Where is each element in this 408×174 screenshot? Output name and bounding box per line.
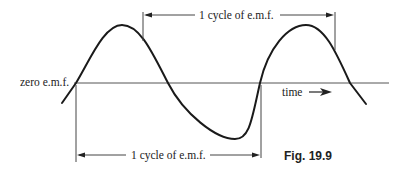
time-label: time	[282, 86, 302, 98]
figure-caption: Fig. 19.9	[284, 149, 332, 163]
top-cycle-right-arrowhead	[326, 13, 334, 18]
zero-emf-label: zero e.m.f.	[20, 76, 69, 88]
top-cycle-label: 1 cycle of e.m.f.	[199, 9, 274, 22]
emf-sine-wave-diagram: zero e.m.f. time 1 cycle of e.m.f. 1 cyc…	[0, 0, 408, 174]
emf-waveform	[62, 25, 366, 139]
bottom-cycle-left-arrowhead	[77, 153, 85, 158]
top-cycle-left-arrowhead	[144, 13, 152, 18]
bottom-cycle-right-arrowhead	[252, 153, 260, 158]
bottom-cycle-label: 1 cycle of e.m.f.	[131, 149, 206, 162]
